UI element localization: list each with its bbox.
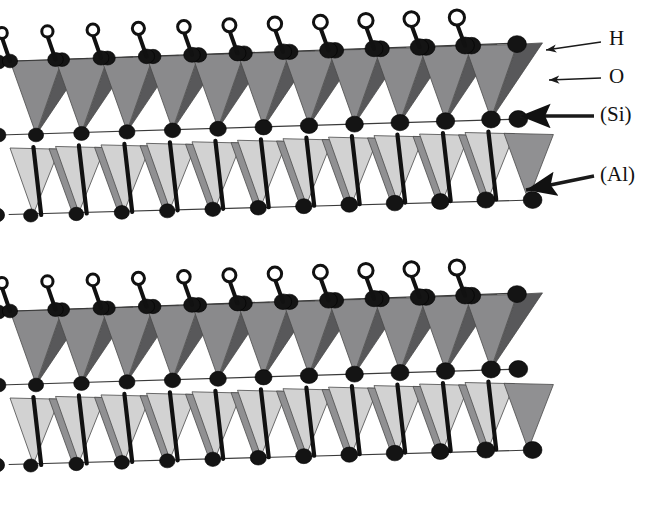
oxygen-atom	[210, 371, 227, 386]
oxygen-atom	[477, 442, 495, 458]
oxygen-atom	[28, 378, 43, 392]
oxygen-atom	[296, 449, 312, 464]
oxygen-atom	[477, 192, 495, 208]
oxygen-atom	[164, 373, 180, 388]
oxygen-atom	[508, 286, 527, 303]
oxygen-atom	[250, 450, 266, 465]
hydrogen-atom	[404, 12, 419, 27]
oxygen-atom	[432, 444, 450, 460]
oxygen-atom	[69, 457, 84, 470]
oxygen-atom	[346, 366, 364, 382]
oxygen-atom	[391, 114, 409, 130]
oxygen-atom	[160, 204, 175, 218]
oxygen-atom	[341, 197, 358, 212]
oxygen-atom	[436, 113, 454, 130]
figure-root: HO(Si)(Al)	[0, 0, 661, 511]
oxygen-atom	[296, 199, 312, 214]
oxygen-atom	[300, 368, 317, 384]
oxygen-atom	[255, 370, 272, 385]
hydrogen-atom	[313, 265, 327, 279]
label-h: H	[609, 26, 624, 50]
oxygen-atom	[482, 111, 501, 128]
oxygen-atom	[432, 194, 450, 210]
oxygen-atom	[255, 120, 272, 135]
hydrogen-atom	[404, 262, 419, 277]
oxygen-atom	[436, 363, 454, 380]
oxygen-atom	[160, 454, 175, 468]
oxygen-atom	[341, 447, 358, 462]
hydrogen-atom	[178, 21, 191, 34]
hydrogen-atom	[87, 24, 99, 36]
crystal-structure-diagram: HO(Si)(Al)	[0, 0, 661, 511]
oxygen-atom	[74, 126, 90, 140]
oxygen-atom	[205, 202, 221, 216]
oxygen-atom	[119, 375, 135, 389]
hydrogen-atom	[268, 17, 281, 30]
oxygen-atom	[482, 361, 501, 378]
hydrogen-atom	[42, 276, 53, 287]
hydrogen-atom	[0, 278, 7, 289]
label-o: O	[609, 64, 624, 88]
oxygen-atom	[69, 207, 84, 220]
hydrogen-atom	[313, 15, 327, 29]
oxygen-atom	[210, 121, 227, 136]
hydrogen-atom	[449, 260, 464, 275]
oxygen-atom	[119, 125, 135, 139]
hydrogen-atom	[132, 272, 144, 284]
hydrogen-atom	[449, 10, 464, 25]
oxygen-atom	[28, 128, 43, 142]
label-si: (Si)	[600, 102, 632, 126]
hydrogen-atom	[359, 263, 373, 277]
oxygen-atom	[250, 200, 266, 215]
oxygen-atom	[391, 364, 409, 380]
label-al: (Al)	[600, 162, 635, 186]
hydrogen-atom	[87, 274, 99, 286]
oxygen-atom	[114, 456, 129, 470]
oxygen-atom	[205, 452, 221, 466]
oxygen-atom	[508, 36, 527, 53]
oxygen-atom	[24, 459, 38, 472]
hydrogen-atom	[42, 26, 53, 37]
hydrogen-atom	[178, 271, 191, 284]
oxygen-atom	[509, 111, 528, 128]
oxygen-atom	[74, 376, 90, 390]
oxygen-atom	[164, 123, 180, 138]
hydrogen-atom	[359, 13, 373, 27]
oxygen-atom	[386, 195, 403, 211]
oxygen-atom	[523, 442, 542, 459]
oxygen-atom	[509, 361, 528, 378]
oxygen-atom	[386, 445, 403, 461]
hydrogen-atom	[223, 269, 236, 282]
hydrogen-atom	[132, 22, 144, 34]
hydrogen-atom	[223, 19, 236, 32]
oxygen-atom	[114, 206, 129, 220]
hydrogen-atom	[268, 267, 281, 280]
hydrogen-atom	[0, 28, 7, 39]
oxygen-atom	[300, 118, 317, 134]
oxygen-atom	[523, 192, 542, 209]
oxygen-atom	[24, 209, 38, 222]
oxygen-atom	[346, 116, 364, 132]
